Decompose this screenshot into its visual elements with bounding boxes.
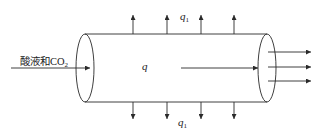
flow-label: q [142,61,148,72]
leak-label-bottom: q1 [178,117,187,130]
outlet-ellipse [258,34,276,102]
flow-diagram: 酸液和CO2 q q1 q1 [0,0,319,133]
inlet-label: 酸液和CO2 [20,57,68,69]
leak-label-top: q1 [180,11,189,24]
